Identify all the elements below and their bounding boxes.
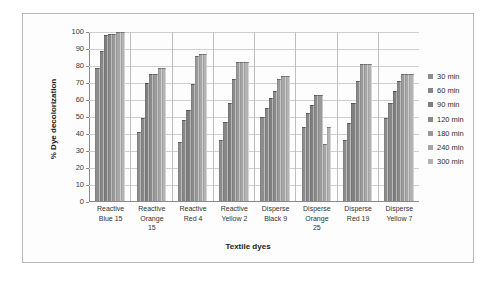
- legend-item[interactable]: 60 min: [428, 83, 464, 97]
- chart-frame: % Dye decolorization 1009080706050403020…: [22, 13, 474, 263]
- x-axis-tick-label: ReactiveRed 4: [173, 204, 214, 233]
- x-axis-tick-label-line: Yellow 7: [380, 214, 419, 224]
- y-axis-tick-mark: [86, 83, 89, 84]
- y-axis-tick-mark: [86, 66, 89, 67]
- x-axis-tick-label-line: Disperse: [339, 204, 378, 214]
- y-axis-tick-label: 70: [76, 79, 84, 87]
- y-axis-tick-mark: [86, 202, 89, 203]
- x-axis-line: [89, 201, 419, 202]
- x-axis-tick-label: ReactiveYellow 2: [214, 204, 255, 233]
- x-axis-tick-label: ReactiveOrange15: [131, 204, 172, 233]
- bar: [368, 64, 372, 201]
- y-axis-tick-label: 100: [71, 28, 84, 36]
- legend-item[interactable]: 300 min: [428, 155, 464, 169]
- y-axis-tick-label: 40: [76, 130, 84, 138]
- bar: [244, 62, 248, 201]
- bar-groups: [90, 32, 419, 201]
- y-axis-tick-label: 90: [76, 45, 84, 53]
- legend-swatch-icon: [428, 145, 433, 150]
- legend-swatch-icon: [428, 117, 433, 122]
- x-axis-tick-label-line: Disperse: [256, 204, 295, 214]
- bar: [121, 32, 125, 201]
- plot-area: 1009080706050403020100: [89, 32, 419, 202]
- x-axis-tick-label-line: Red 4: [174, 214, 213, 224]
- legend-label: 300 min: [437, 157, 464, 166]
- y-axis-tick-mark: [86, 32, 89, 33]
- x-axis-tick-label-line: Disperse: [297, 204, 336, 214]
- bar: [162, 68, 166, 202]
- legend-label: 90 min: [437, 100, 460, 109]
- legend-item[interactable]: 180 min: [428, 126, 464, 140]
- bar: [409, 74, 413, 201]
- chart-legend: 30 min60 min90 min120 min180 min240 min3…: [428, 69, 464, 169]
- legend-label: 180 min: [437, 129, 464, 138]
- x-axis-tick-label-line: 25: [297, 223, 336, 233]
- x-axis-tick-label-line: 15: [132, 223, 171, 233]
- y-axis-tick-label: 20: [76, 164, 84, 172]
- legend-swatch-icon: [428, 131, 433, 136]
- y-axis-tick-mark: [86, 49, 89, 50]
- x-axis-tick-labels: ReactiveBlue 15ReactiveOrange15ReactiveR…: [90, 204, 420, 233]
- x-axis-tick-label-line: Orange: [132, 214, 171, 224]
- y-axis-tick-label: 0: [80, 198, 84, 206]
- bar: [327, 127, 331, 201]
- legend-item[interactable]: 120 min: [428, 112, 464, 126]
- y-axis-tick-label: 30: [76, 147, 84, 155]
- bar-group: [172, 32, 213, 201]
- x-axis-tick-label: ReactiveBlue 15: [90, 204, 131, 233]
- legend-swatch-icon: [428, 74, 433, 79]
- x-axis-tick-label-line: Reactive: [132, 204, 171, 214]
- legend-item[interactable]: 30 min: [428, 69, 464, 83]
- bar-group: [90, 32, 130, 201]
- x-axis-tick-label-line: Blue 15: [91, 214, 130, 224]
- bar-group: [378, 32, 419, 201]
- legend-swatch-icon: [428, 102, 433, 107]
- y-axis-tick-mark: [86, 168, 89, 169]
- y-axis-tick-mark: [86, 185, 89, 186]
- x-axis-tick-label-line: Reactive: [215, 204, 254, 214]
- x-axis-tick-label-line: Black 9: [256, 214, 295, 224]
- x-axis-tick-label: DisperseBlack 9: [255, 204, 296, 233]
- y-axis-tick-mark: [86, 100, 89, 101]
- legend-label: 240 min: [437, 143, 464, 152]
- y-axis-tick-label: 10: [76, 181, 84, 189]
- y-axis-tick-mark: [86, 151, 89, 152]
- x-axis-tick-label-line: Reactive: [91, 204, 130, 214]
- x-axis-tick-label-line: Red 19: [339, 214, 378, 224]
- legend-label: 60 min: [437, 86, 460, 95]
- legend-label: 120 min: [437, 115, 464, 124]
- legend-label: 30 min: [437, 72, 460, 81]
- y-axis-tick-mark: [86, 117, 89, 118]
- x-axis-tick-label-line: Reactive: [174, 204, 213, 214]
- x-axis-tick-label-line: Yellow 2: [215, 214, 254, 224]
- legend-item[interactable]: 90 min: [428, 98, 464, 112]
- y-axis-tick-label: 60: [76, 96, 84, 104]
- x-axis-tick-label: DisperseRed 19: [338, 204, 379, 233]
- bar-group: [130, 32, 171, 201]
- bar-group: [295, 32, 336, 201]
- bar-group: [337, 32, 378, 201]
- y-axis-tick-mark: [86, 134, 89, 135]
- x-axis-tick-label-line: Orange: [297, 214, 336, 224]
- y-axis-tick-label: 80: [76, 62, 84, 70]
- x-axis-title: Textile dyes: [23, 242, 473, 251]
- bar: [286, 76, 290, 201]
- y-axis-tick-label: 50: [76, 113, 84, 121]
- legend-item[interactable]: 240 min: [428, 140, 464, 154]
- bar-group: [213, 32, 254, 201]
- x-axis-tick-label-line: Disperse: [380, 204, 419, 214]
- bar-group: [254, 32, 295, 201]
- y-axis-title: % Dye decolorization: [49, 79, 58, 159]
- bar: [203, 54, 207, 201]
- x-axis-tick-label: DisperseYellow 7: [379, 204, 420, 233]
- legend-swatch-icon: [428, 88, 433, 93]
- x-axis-tick-label: DisperseOrange25: [296, 204, 337, 233]
- legend-swatch-icon: [428, 159, 433, 164]
